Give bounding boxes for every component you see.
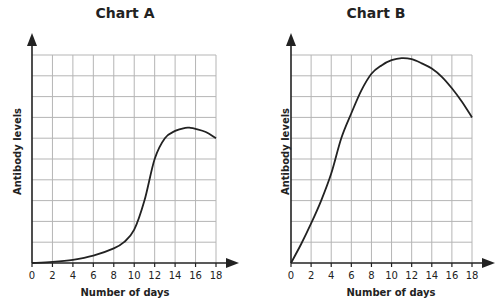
x-tick-label: 18: [466, 270, 479, 281]
axes: 024681012141618: [286, 33, 495, 281]
axes: 024681012141618: [27, 33, 239, 281]
x-tick-label: 14: [169, 270, 182, 281]
x-tick-label: 2: [308, 270, 314, 281]
chart-a-plot: 024681012141618: [0, 0, 250, 307]
x-tick-label: 12: [148, 270, 161, 281]
x-tick-label: 6: [348, 270, 354, 281]
x-tick-label: 12: [405, 270, 418, 281]
x-axis-arrow-icon: [482, 258, 495, 268]
grid: [32, 55, 216, 263]
x-tick-label: 10: [385, 270, 398, 281]
x-tick-label: 16: [189, 270, 202, 281]
y-axis-arrow-icon: [27, 33, 37, 46]
x-tick-label: 0: [29, 270, 35, 281]
x-tick-label: 4: [328, 270, 334, 281]
x-tick-label: 14: [425, 270, 438, 281]
x-axis-arrow-icon: [226, 258, 239, 268]
chart-b: Chart B Antibody levels Number of days 0…: [251, 0, 501, 307]
antibody-curve: [291, 58, 472, 263]
x-tick-label: 8: [368, 270, 374, 281]
x-tick-label: 18: [210, 270, 223, 281]
x-tick-label: 16: [446, 270, 459, 281]
y-axis-arrow-icon: [286, 33, 296, 46]
grid: [291, 55, 472, 263]
x-tick-label: 2: [49, 270, 55, 281]
x-tick-label: 10: [128, 270, 141, 281]
chart-a: Chart A Antibody levels Number of days 0…: [0, 0, 250, 307]
x-tick-label: 6: [90, 270, 96, 281]
x-tick-label: 4: [70, 270, 76, 281]
chart-b-plot: 024681012141618: [251, 0, 501, 307]
x-tick-label: 8: [111, 270, 117, 281]
x-tick-label: 0: [288, 270, 294, 281]
